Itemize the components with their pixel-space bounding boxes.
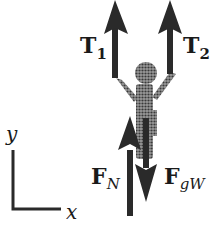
normal-force-label: FN — [91, 163, 121, 193]
tension-2-arrow — [158, 0, 182, 74]
tension-1-arrow — [104, 0, 128, 78]
tension-1-label: T1 — [80, 32, 107, 63]
y-axis-label: y — [5, 122, 18, 146]
x-axis-label: x — [66, 200, 77, 224]
weight-force-label: FgW — [164, 163, 206, 193]
free-body-diagram: T1 T2 FN FgW y x — [0, 0, 218, 227]
tension-2-label: T2 — [183, 32, 210, 63]
coordinate-axes: y x — [5, 122, 77, 224]
